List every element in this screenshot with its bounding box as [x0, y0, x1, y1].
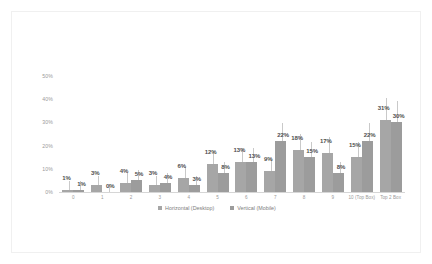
bar-vertical-mobile[interactable] — [160, 183, 171, 192]
data-label: 13% — [249, 153, 261, 159]
bar-horizontal-desktop[interactable] — [178, 178, 189, 192]
bar-horizontal-desktop[interactable] — [62, 190, 73, 192]
data-label: 15% — [306, 148, 318, 154]
bar-vertical-mobile[interactable] — [246, 162, 257, 192]
chart-legend: Horizontal (Desktop)Vertical (Mobile) — [12, 205, 422, 211]
x-axis-label: 5 — [216, 195, 219, 200]
data-label: 3% — [91, 170, 99, 176]
bar-vertical-mobile[interactable] — [391, 122, 402, 192]
bar-vertical-mobile[interactable] — [362, 141, 373, 192]
chart-container: 0%10%20%30%40%50% Horizontal (Desktop)Ve… — [11, 11, 421, 253]
bar-horizontal-desktop[interactable] — [207, 164, 218, 192]
bar-connector-line — [98, 176, 99, 185]
y-axis: 0%10%20%30%40%50% — [12, 76, 57, 192]
data-label: 8% — [337, 164, 345, 170]
data-label: 4% — [164, 174, 172, 180]
legend-item[interactable]: Horizontal (Desktop) — [158, 205, 214, 211]
bar-horizontal-desktop[interactable] — [149, 185, 160, 192]
data-label: 3% — [192, 176, 200, 182]
x-axis-label: 7 — [274, 195, 277, 200]
x-axis-label: 1 — [101, 195, 104, 200]
x-axis-label: 8 — [303, 195, 306, 200]
bar-group — [293, 76, 315, 192]
bar-connector-line — [127, 173, 128, 183]
data-label: 15% — [349, 142, 361, 148]
x-axis-label: 6 — [245, 195, 248, 200]
bar-horizontal-desktop[interactable] — [293, 150, 304, 192]
data-label: 12% — [205, 149, 217, 155]
bar-horizontal-desktop[interactable] — [91, 185, 102, 192]
legend-swatch-icon — [230, 206, 234, 210]
y-axis-tick: 20% — [42, 143, 53, 149]
x-axis-label: 0 — [72, 195, 75, 200]
x-axis-label: 10 (Top Box) — [348, 195, 375, 200]
data-label: 6% — [178, 163, 186, 169]
bar-horizontal-desktop[interactable] — [264, 171, 275, 192]
legend-label: Horizontal (Desktop) — [165, 205, 214, 211]
bar-vertical-mobile[interactable] — [275, 141, 286, 192]
data-label: 30% — [393, 113, 405, 119]
data-label: 31% — [378, 105, 390, 111]
bar-vertical-mobile[interactable] — [218, 173, 229, 192]
data-label: 8% — [221, 164, 229, 170]
bar-group — [235, 76, 257, 192]
bar-group — [322, 76, 344, 192]
y-axis-tick: 40% — [42, 96, 53, 102]
x-axis-label: 2 — [130, 195, 133, 200]
data-label: 4% — [120, 168, 128, 174]
x-axis-label: Top 2 Box — [380, 195, 401, 200]
plot-area — [59, 76, 405, 192]
data-label: 22% — [364, 132, 376, 138]
bar-horizontal-desktop[interactable] — [235, 162, 246, 192]
bar-vertical-mobile[interactable] — [189, 185, 200, 192]
bar-vertical-mobile[interactable] — [131, 180, 142, 192]
data-label: 1% — [77, 181, 85, 187]
bar-connector-line — [156, 176, 157, 185]
legend-swatch-icon — [158, 206, 162, 210]
bar-horizontal-desktop[interactable] — [120, 183, 131, 192]
bar-vertical-mobile[interactable] — [73, 190, 84, 192]
x-axis-label: 9 — [332, 195, 335, 200]
y-axis-tick: 0% — [45, 189, 53, 195]
x-axis-label: 3 — [159, 195, 162, 200]
x-axis-label: 4 — [187, 195, 190, 200]
data-label: 9% — [264, 156, 272, 162]
data-label: 0% — [106, 183, 114, 189]
bar-connector-line — [69, 181, 70, 189]
bar-vertical-mobile[interactable] — [304, 157, 315, 192]
data-label: 17% — [320, 138, 332, 144]
data-label: 13% — [234, 147, 246, 153]
bar-group — [178, 76, 200, 192]
data-label: 3% — [149, 170, 157, 176]
bar-horizontal-desktop[interactable] — [380, 120, 391, 192]
bar-group — [207, 76, 229, 192]
bar-group — [380, 76, 402, 192]
legend-label: Vertical (Mobile) — [237, 205, 276, 211]
y-axis-tick: 30% — [42, 119, 53, 125]
bar-vertical-mobile[interactable] — [333, 173, 344, 192]
data-label: 18% — [291, 135, 303, 141]
data-label: 22% — [277, 132, 289, 138]
y-axis-tick: 10% — [42, 166, 53, 172]
data-label: 1% — [62, 175, 70, 181]
data-label: 5% — [135, 171, 143, 177]
y-axis-tick: 50% — [42, 73, 53, 79]
bar-horizontal-desktop[interactable] — [351, 157, 362, 192]
x-axis-baseline — [59, 192, 405, 193]
legend-item[interactable]: Vertical (Mobile) — [230, 205, 276, 211]
bar-horizontal-desktop[interactable] — [322, 153, 333, 192]
